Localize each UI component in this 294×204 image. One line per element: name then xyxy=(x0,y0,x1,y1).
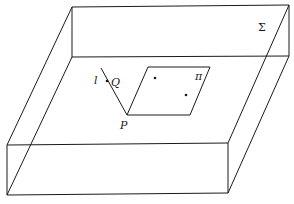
line-l-label: l xyxy=(94,74,98,87)
right-bottom-edge xyxy=(228,56,289,193)
left-bottom-edge xyxy=(7,57,72,195)
point-q-dot xyxy=(106,80,109,83)
plane-point-dot xyxy=(154,77,157,80)
back-top-edge xyxy=(72,5,289,7)
plane-pi-label: π xyxy=(194,70,203,83)
diagram-canvas: l Q P π Σ xyxy=(0,0,294,204)
back-bottom-edge xyxy=(72,56,289,57)
front-top-edge xyxy=(7,143,228,145)
point-p-label: P xyxy=(119,119,128,132)
plane-point-dot xyxy=(185,94,188,97)
slab-box xyxy=(7,5,289,195)
region-sigma-label: Σ xyxy=(258,21,266,34)
point-q-label: Q xyxy=(111,76,120,89)
front-bottom-edge xyxy=(7,193,228,195)
left-top-edge xyxy=(7,7,72,145)
